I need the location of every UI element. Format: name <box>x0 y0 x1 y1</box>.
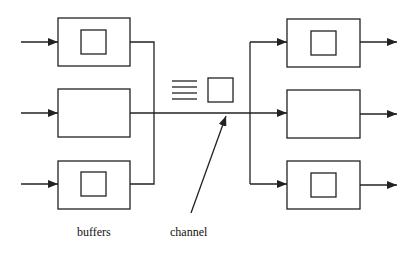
packet-icon <box>208 78 233 102</box>
channel-label: channel <box>170 225 207 240</box>
left-node-3 <box>58 161 130 209</box>
queue-lines-icon <box>172 81 197 99</box>
right-buffer-3 <box>311 173 336 197</box>
buffers-label: buffers <box>77 225 111 240</box>
left-node-1 <box>58 18 130 66</box>
channel-pointer <box>191 116 226 213</box>
right-node-1 <box>287 19 360 67</box>
right-buffer-1 <box>311 31 336 55</box>
left-buffer-3 <box>81 172 106 196</box>
right-node-2 <box>287 90 360 138</box>
diagram-canvas <box>0 0 415 256</box>
left-node-2 <box>58 89 130 137</box>
left-buffer-1 <box>81 30 106 54</box>
right-node-3 <box>287 161 360 209</box>
